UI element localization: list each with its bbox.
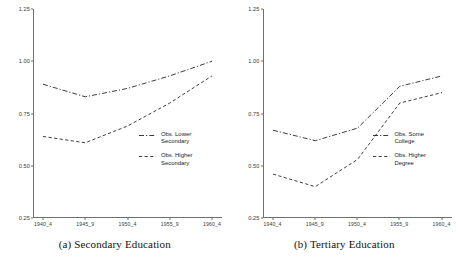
- y-tick-label: 0.25: [248, 215, 259, 221]
- x-tick-label: 1960_4: [433, 221, 451, 227]
- x-tick-label: 1955_9: [161, 221, 179, 227]
- legend-label: Obs. Higher Secondary: [161, 152, 192, 166]
- legend-item: Obs. Lower Secondary: [139, 131, 192, 145]
- figure-container: 0.250.500.751.001.25 1940_41945_91950_41…: [0, 0, 459, 265]
- panel-tertiary-education: 0.250.500.751.001.25 1940_41945_91950_41…: [230, 0, 459, 265]
- y-tick-label: 1.00: [248, 58, 259, 64]
- x-tick-mark: [272, 218, 273, 220]
- legend-line-swatch: [139, 153, 156, 160]
- x-tick-mark: [357, 218, 358, 220]
- y-tick-label: 1.25: [19, 6, 30, 12]
- data-lines-b: [263, 9, 452, 218]
- legend-label: Obs. Some College: [395, 131, 424, 145]
- y-tick-label: 0.25: [19, 215, 30, 221]
- x-tick-label: 1950_4: [119, 221, 137, 227]
- panel-caption-b: (b) Tertiary Education: [230, 238, 459, 250]
- plot-area-a: 0.250.500.751.001.25 1940_41945_91950_41…: [33, 9, 222, 218]
- legend-line-swatch: [373, 132, 390, 139]
- panel-caption-a: (a) Secondary Education: [0, 238, 230, 250]
- x-tick-label: 1950_4: [348, 221, 366, 227]
- x-tick-mark: [399, 218, 400, 220]
- data-lines-a: [33, 9, 222, 218]
- x-tick-mark: [441, 218, 442, 220]
- legend-b: Obs. Some CollegeObs. Higher Degree: [373, 131, 426, 174]
- x-tick-mark: [85, 218, 86, 220]
- x-tick-mark: [212, 218, 213, 220]
- y-tick-label: 1.00: [19, 58, 30, 64]
- legend-line-swatch: [373, 153, 390, 160]
- panel-secondary-education: 0.250.500.751.001.25 1940_41945_91950_41…: [0, 0, 230, 265]
- legend-label: Obs. Lower Secondary: [161, 131, 191, 145]
- y-tick-label: 1.25: [248, 6, 259, 12]
- y-tick-label: 0.50: [248, 163, 259, 169]
- x-tick-label: 1945_9: [306, 221, 324, 227]
- plot-area-b: 0.250.500.751.001.25 1940_41945_91950_41…: [263, 9, 452, 218]
- x-tick-mark: [314, 218, 315, 220]
- legend-a: Obs. Lower SecondaryObs. Higher Secondar…: [139, 131, 192, 174]
- legend-label: Obs. Higher Degree: [395, 152, 426, 166]
- y-tick-label: 0.75: [248, 111, 259, 117]
- y-tick-label: 0.50: [19, 163, 30, 169]
- legend-line-swatch: [139, 132, 156, 139]
- series-line: [43, 61, 212, 97]
- y-tick-label: 0.75: [19, 111, 30, 117]
- x-tick-label: 1945_9: [76, 221, 94, 227]
- x-tick-label: 1940_4: [34, 221, 52, 227]
- x-tick-mark: [169, 218, 170, 220]
- x-tick-label: 1955_9: [390, 221, 408, 227]
- legend-item: Obs. Higher Secondary: [139, 152, 192, 166]
- x-tick-mark: [43, 218, 44, 220]
- x-tick-mark: [127, 218, 128, 220]
- legend-item: Obs. Some College: [373, 131, 426, 145]
- legend-item: Obs. Higher Degree: [373, 152, 426, 166]
- x-tick-label: 1940_4: [264, 221, 282, 227]
- x-tick-label: 1960_4: [203, 221, 221, 227]
